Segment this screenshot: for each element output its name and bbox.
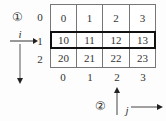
row-index-1: 1 (37, 35, 43, 47)
cell-2-1: 21 (76, 48, 103, 68)
col-index-3: 3 (140, 71, 146, 83)
col-axis-label: j (125, 104, 128, 116)
cell-2-2: 22 (102, 48, 130, 68)
row-index-2: 2 (37, 53, 43, 65)
cell-0-0: 0 (50, 4, 77, 32)
row-index-0: 0 (37, 11, 43, 23)
col-marker: ② (95, 99, 106, 114)
cell-2-0: 20 (50, 48, 77, 68)
cell-0-3: 3 (129, 4, 156, 32)
col-index-0: 0 (60, 71, 66, 83)
col-index-1: 1 (87, 71, 93, 83)
cell-0-2: 2 (102, 4, 130, 32)
highlighted-row-outline (50, 31, 156, 49)
cell-2-3: 23 (129, 48, 156, 68)
cell-0-1: 1 (76, 4, 103, 32)
col-index-2: 2 (114, 71, 120, 83)
